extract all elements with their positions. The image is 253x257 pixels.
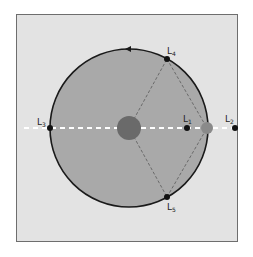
point-l1 [184,125,190,131]
label-l3: L3 [37,117,46,128]
label-l2: L2 [225,114,234,125]
point-l3 [47,125,53,131]
label-l4: L4 [167,46,176,57]
point-l5 [164,194,170,200]
earth-body [201,122,213,134]
label-l5: L5 [167,202,176,213]
sun-body [117,116,141,140]
point-l4 [164,56,170,62]
point-l2 [232,125,238,131]
lagrange-diagram: L1L2L3L4L5 [0,0,253,257]
